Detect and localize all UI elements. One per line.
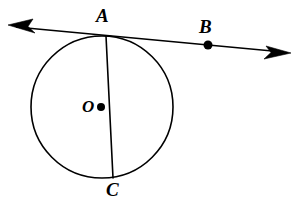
- label-center-o: O: [82, 98, 94, 115]
- label-point-b: B: [199, 17, 212, 36]
- label-point-c: C: [106, 180, 119, 199]
- center-point-dot: [97, 103, 105, 111]
- label-point-a: A: [96, 6, 109, 25]
- geometry-canvas: [0, 0, 294, 202]
- chord-segment-ac: [106, 36, 113, 178]
- arrow-right-icon: [264, 46, 291, 59]
- point-b-dot: [204, 41, 213, 50]
- geometry-diagram: A B O C: [0, 0, 294, 202]
- tangent-line-ab: [16, 27, 283, 52]
- arrow-left-icon: [8, 19, 35, 33]
